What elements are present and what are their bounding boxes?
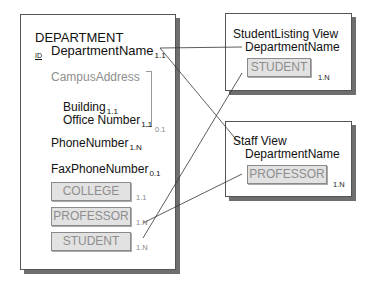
connector-lines <box>0 0 375 284</box>
connector-student-to-student-listing <box>143 73 242 238</box>
connector-departmentname-to-student-listing <box>160 47 242 48</box>
connector-professor-to-staff <box>143 174 242 223</box>
